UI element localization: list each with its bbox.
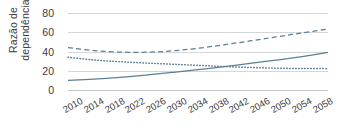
- series-layer: [68, 13, 328, 90]
- y-tick-label-40: 40: [28, 46, 54, 58]
- gridline-0: [68, 90, 328, 91]
- x-tick-label-2058: 2058: [310, 95, 334, 115]
- plot-area: 020406080: [68, 13, 328, 90]
- dependency-ratio-line-chart: Razão de dependência 020406080 201020142…: [0, 0, 339, 134]
- y-tick-label-80: 80: [28, 7, 54, 19]
- y-tick-label-20: 20: [28, 65, 54, 77]
- y-tick-label-0: 0: [28, 84, 54, 96]
- y-tick-label-60: 60: [28, 26, 54, 38]
- series-line-youth-dependency-ratio: [68, 57, 328, 68]
- y-axis-title-line-1: Razão de: [7, 7, 19, 53]
- series-line-total-dependency-ratio: [68, 29, 328, 52]
- x-axis-tick-labels: 2010201420182022202620302034203820422046…: [68, 95, 328, 133]
- series-line-old-age-dependency-ratio: [68, 52, 328, 80]
